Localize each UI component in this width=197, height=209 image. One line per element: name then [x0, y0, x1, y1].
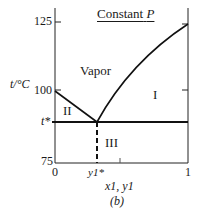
x-tick-1: 1 — [185, 166, 191, 178]
y-axis-label: t/°C — [10, 78, 29, 90]
x-tick-y1star: y1* — [88, 167, 104, 178]
title-variable: P — [146, 6, 154, 21]
x-axis-label: x1, y1 — [105, 180, 134, 192]
y-tick-125: 125 — [34, 15, 52, 27]
region-I-label: I — [153, 88, 157, 101]
x-tick-0: 0 — [52, 166, 58, 178]
y-tick-tstar: t* — [41, 115, 50, 127]
y-tick-100: 100 — [34, 84, 52, 96]
region-II-label: II — [63, 104, 72, 117]
title-text: Constant — [97, 6, 143, 21]
plot-title: Constant P — [97, 7, 154, 20]
region-vapor-label: Vapor — [80, 64, 111, 77]
region-III-label: III — [105, 136, 118, 149]
figure-caption: (b) — [110, 195, 124, 207]
curve-II — [55, 91, 97, 122]
